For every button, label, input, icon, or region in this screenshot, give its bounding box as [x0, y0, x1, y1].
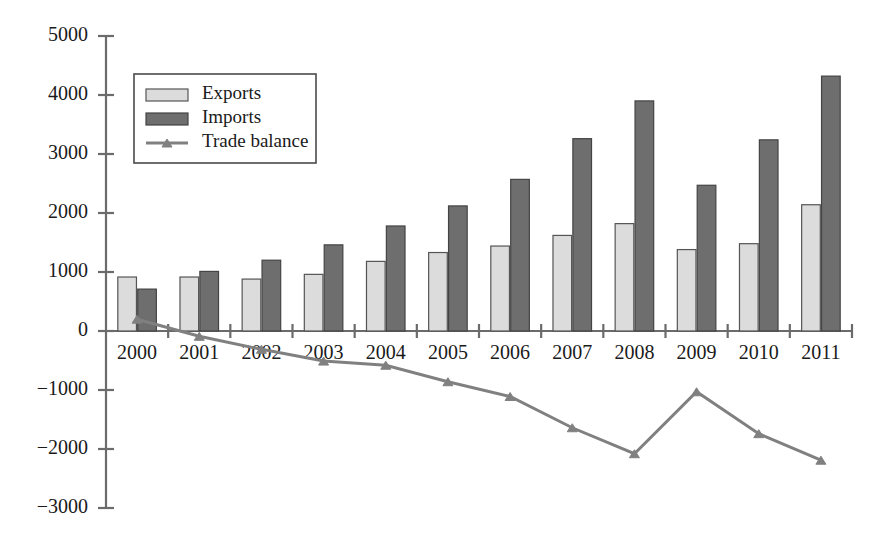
x-tick-label: 2001 — [179, 341, 219, 363]
bar-exports — [553, 235, 572, 331]
bar-exports — [304, 274, 323, 331]
bar-imports — [635, 101, 654, 331]
legend-swatch-exports-icon — [146, 89, 188, 101]
x-tick-label: 2008 — [614, 341, 654, 363]
x-tick-label: 2010 — [739, 341, 779, 363]
x-tick-label: 2006 — [490, 341, 530, 363]
trade-balance-marker — [692, 388, 702, 396]
trade-balance-line — [137, 319, 821, 460]
x-tick-label: 2000 — [117, 341, 157, 363]
y-tick-label: −3000 — [37, 495, 88, 517]
x-tick-label: 2007 — [552, 341, 592, 363]
y-tick-label: 3000 — [48, 141, 88, 163]
bar-exports — [615, 224, 634, 331]
legend-item-label: Exports — [202, 82, 261, 103]
legend-swatch-imports-icon — [146, 113, 188, 125]
bar-imports — [697, 185, 716, 331]
bar-imports — [262, 260, 281, 331]
y-tick-label: −1000 — [37, 377, 88, 399]
y-tick-label: 0 — [78, 318, 88, 340]
y-tick-label: −2000 — [37, 436, 88, 458]
y-tick-label: 1000 — [48, 259, 88, 281]
bar-imports — [449, 206, 468, 331]
legend-item-label: Imports — [202, 106, 261, 127]
bar-imports — [511, 179, 530, 331]
bar-exports — [491, 246, 510, 331]
bar-exports — [366, 261, 385, 331]
legend-item-label: Trade balance — [202, 130, 308, 151]
bar-exports — [429, 253, 448, 331]
bar-imports — [759, 140, 778, 331]
y-tick-label: 5000 — [48, 23, 88, 45]
y-tick-label: 2000 — [48, 200, 88, 222]
chart-container: 500040003000200010000−1000−2000−3000 200… — [0, 0, 870, 539]
x-tick-label: 2011 — [801, 341, 840, 363]
bar-exports — [677, 250, 696, 331]
bar-imports — [386, 226, 405, 331]
bar-exports — [739, 244, 758, 331]
y-tick-label: 4000 — [48, 82, 88, 104]
bar-line-combo-chart: 500040003000200010000−1000−2000−3000 200… — [0, 0, 870, 539]
x-tick-label: 2005 — [428, 341, 468, 363]
bar-imports — [573, 139, 592, 331]
chart-legend: ExportsImportsTrade balance — [134, 74, 316, 163]
bar-imports — [324, 245, 343, 331]
x-tick-label: 2009 — [677, 341, 717, 363]
bar-imports — [822, 76, 841, 331]
x-tick-label: 2004 — [366, 341, 406, 363]
bar-imports — [200, 271, 219, 331]
bar-exports — [802, 205, 821, 331]
y-axis: 500040003000200010000−1000−2000−3000 — [37, 23, 114, 517]
bar-exports — [180, 277, 199, 331]
bar-exports — [242, 279, 261, 331]
